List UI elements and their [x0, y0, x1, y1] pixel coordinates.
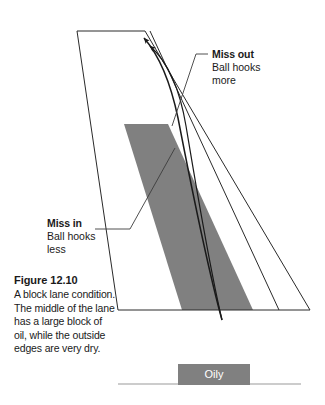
oil-block-shape — [124, 124, 253, 310]
callout-miss-in-title: Miss in — [47, 217, 95, 230]
figure-caption-title: Figure 12.10 — [14, 274, 116, 287]
legend-oily-label: Oily — [178, 364, 250, 385]
callout-miss-out: Miss out Ball hooks more — [212, 48, 260, 88]
callout-miss-out-line1: Ball hooks — [212, 61, 260, 74]
figure-caption: Figure 12.10 A block lane condition. The… — [14, 274, 116, 355]
callout-miss-in-line1: Ball hooks — [47, 230, 95, 243]
callout-miss-out-line2: more — [212, 74, 260, 87]
figure-bowling-block-lane: Miss out Ball hooks more Miss in Ball ho… — [0, 0, 325, 405]
figure-caption-body: A block lane condition. The middle of th… — [14, 288, 116, 355]
callout-miss-in-line2: less — [47, 243, 95, 256]
callout-miss-in: Miss in Ball hooks less — [47, 217, 95, 257]
callout-miss-out-title: Miss out — [212, 48, 260, 61]
